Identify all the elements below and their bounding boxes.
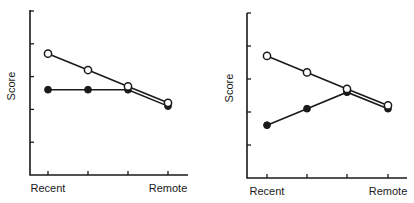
right-open-circle-marker <box>303 69 310 76</box>
left-open-circle-marker <box>164 99 171 106</box>
left-y-axis-label: Score <box>5 72 17 101</box>
right-x-label-remote: Remote <box>369 185 408 197</box>
left-y-axis <box>30 10 188 175</box>
left-chart-panel: Score Recent Remote <box>5 10 188 194</box>
left-line-filled-circle <box>48 90 168 106</box>
left-open-circle-marker <box>124 83 131 90</box>
left-filled-circle-marker <box>45 86 52 93</box>
right-series <box>263 52 391 128</box>
right-y-axis-label: Score <box>223 74 235 103</box>
right-y-axis <box>247 13 407 178</box>
left-line-open-circle <box>48 54 168 103</box>
right-chart-panel: Score Recent Remote <box>223 13 407 197</box>
right-x-label-recent: Recent <box>250 185 285 197</box>
right-filled-circle-marker <box>304 105 311 112</box>
right-filled-circle-marker <box>264 122 271 129</box>
left-x-label-remote: Remote <box>149 182 188 194</box>
chart-canvas: Score Recent Remote Score Recent Remote <box>0 0 414 203</box>
right-open-circle-marker <box>263 52 270 59</box>
right-open-circle-marker <box>384 102 391 109</box>
left-filled-circle-marker <box>85 86 92 93</box>
left-open-circle-marker <box>44 50 51 57</box>
right-open-circle-marker <box>343 85 350 92</box>
left-series <box>44 50 171 109</box>
right-line-open-circle <box>267 56 388 106</box>
right-line-filled-circle <box>267 92 388 125</box>
left-open-circle-marker <box>84 66 91 73</box>
left-x-label-recent: Recent <box>31 182 66 194</box>
